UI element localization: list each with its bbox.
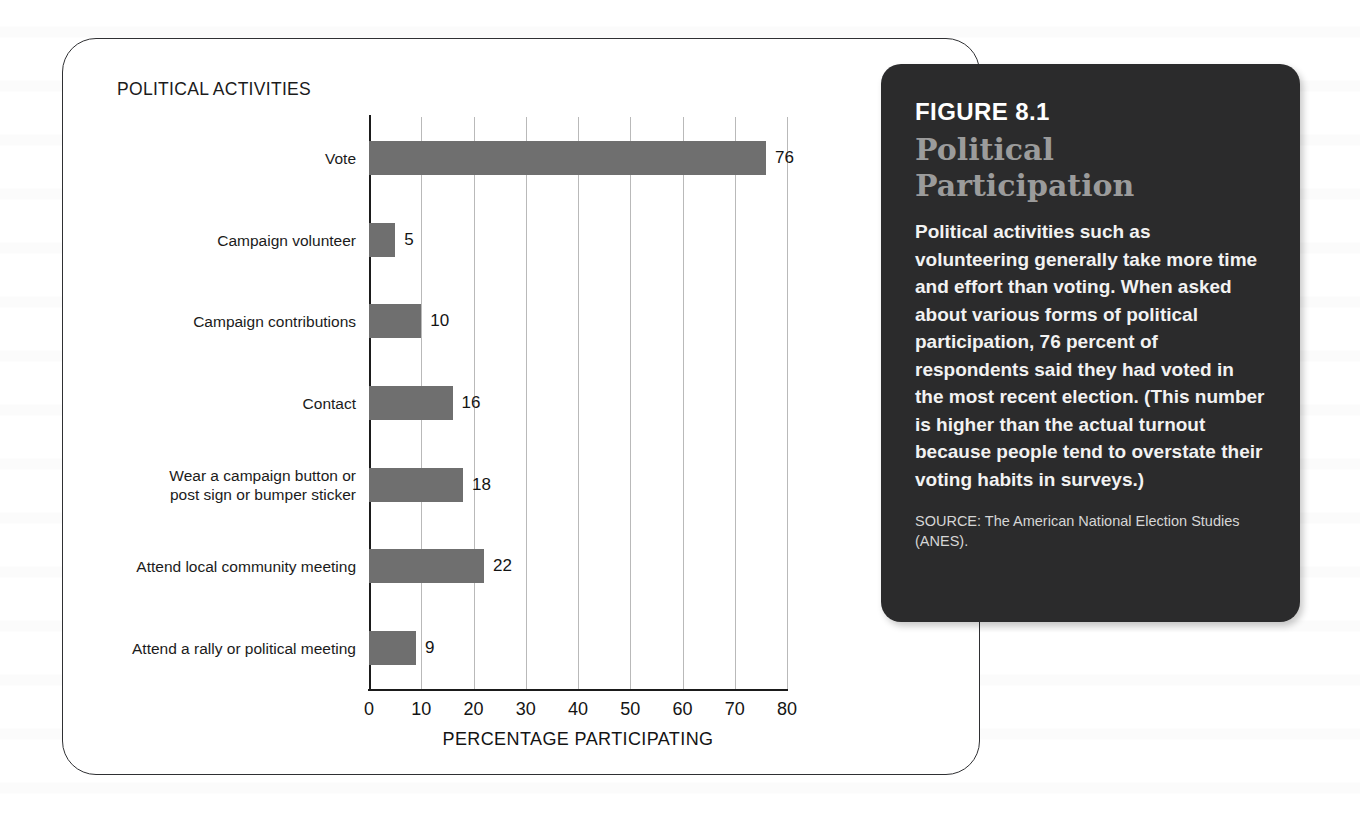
bar-row: Contact16: [369, 386, 787, 420]
bar-value-label: 9: [425, 638, 434, 658]
x-tick-label: 50: [620, 699, 640, 720]
bar-row: Attend a rally or political meeting9: [369, 631, 787, 665]
x-tick-label: 70: [725, 699, 745, 720]
bar-category-label: Campaign contributions: [193, 312, 356, 331]
bar[interactable]: [369, 631, 416, 665]
x-tick-label: 40: [568, 699, 588, 720]
bar-category-label: Vote: [325, 148, 356, 167]
bar-category-label: Attend a rally or political meeting: [132, 639, 356, 658]
x-axis-title: PERCENTAGE PARTICIPATING: [369, 729, 787, 750]
bar-value-label: 18: [472, 475, 491, 495]
bar-category-label: Wear a campaign button or post sign or b…: [169, 466, 356, 504]
figure-number: FIGURE 8.1: [915, 98, 1266, 126]
bar[interactable]: [369, 468, 463, 502]
x-axis-ticks: 01020304050607080: [369, 691, 787, 721]
x-tick-label: 60: [672, 699, 692, 720]
bar-category-label: Attend local community meeting: [136, 557, 356, 576]
gridline: [787, 117, 788, 689]
figure-source-text: SOURCE: The American National Election S…: [915, 511, 1266, 551]
bar[interactable]: [369, 549, 484, 583]
bar-row: Attend local community meeting22: [369, 549, 787, 583]
x-tick-label: 20: [463, 699, 483, 720]
figure-caption-box: FIGURE 8.1 Political Participation Polit…: [881, 64, 1300, 622]
bar-value-label: 10: [430, 311, 449, 331]
x-tick-label: 30: [516, 699, 536, 720]
figure-caption-text: Political activities such as volunteerin…: [915, 218, 1266, 493]
bar-category-label: Contact: [303, 394, 356, 413]
bar-row: Wear a campaign button or post sign or b…: [369, 468, 787, 502]
x-tick-label: 10: [411, 699, 431, 720]
bar[interactable]: [369, 304, 421, 338]
bar-row: Campaign contributions10: [369, 304, 787, 338]
plot-area: Vote76Campaign volunteer5Campaign contri…: [369, 117, 787, 689]
bar-value-label: 76: [775, 148, 794, 168]
bar[interactable]: [369, 223, 395, 257]
figure-heading: Political Participation: [915, 132, 1266, 204]
chart-panel: POLITICAL ACTIVITIES Vote76Campaign volu…: [62, 38, 980, 775]
bar-value-label: 5: [404, 230, 413, 250]
bar-value-label: 22: [493, 556, 512, 576]
bar[interactable]: [369, 386, 453, 420]
x-tick-label: 0: [364, 699, 374, 720]
x-tick-label: 80: [777, 699, 797, 720]
chart-title: POLITICAL ACTIVITIES: [117, 79, 311, 100]
bar-category-label: Campaign volunteer: [217, 230, 356, 249]
bar[interactable]: [369, 141, 766, 175]
bar-row: Campaign volunteer5: [369, 223, 787, 257]
bar-value-label: 16: [462, 393, 481, 413]
bar-row: Vote76: [369, 141, 787, 175]
